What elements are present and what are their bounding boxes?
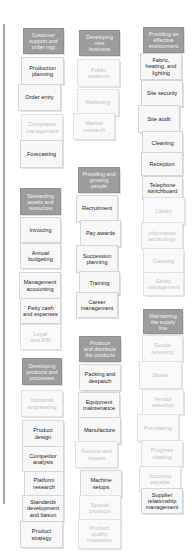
group-header-people: Providing and growing people [78,167,120,193]
card-recruitment[interactable]: Recruitment [76,195,118,222]
card-fabric-heating-lighting[interactable]: Fabric, heating, and lighting [140,53,182,80]
card-special-products[interactable]: Special products [79,495,121,521]
card-product-quality-inspection[interactable]: Product quality inspection [78,519,121,549]
card-career-management[interactable]: Career management [76,292,118,318]
group-header-customer-support: Customer support and order mgt [23,28,64,54]
card-site-audit[interactable]: Site audit [138,105,180,133]
card-product-design[interactable]: Product design [22,420,64,447]
group-header-new-business: Developing new business [79,30,120,56]
group-header-supply-line: Maintaining the supply line [143,309,183,334]
left-divider-rule [3,24,5,504]
card-goods-receiving[interactable]: Goods receiving [142,335,183,362]
card-competitor-analysis[interactable]: Competitor analysis [22,446,64,472]
card-progress-chasing[interactable]: Progress chasing [141,440,183,467]
card-purchasing[interactable]: Purchasing [137,414,179,442]
card-management-accounting[interactable]: Management accounting [19,272,61,299]
card-returns-repairs[interactable]: Returns and repairs [75,441,118,468]
card-production-planning[interactable]: Production planning [21,57,64,85]
card-library[interactable]: Library [143,197,185,225]
card-pay-awards[interactable]: Pay awards [80,220,121,247]
card-order-entry[interactable]: Order entry [18,84,61,111]
card-supplier-relationship-management[interactable]: Supplier relationship management [141,488,183,514]
card-packing-despatch[interactable]: Packing and despatch [79,364,121,391]
card-industrial-engineering[interactable]: Industrial engineering [21,390,63,417]
card-catering[interactable]: Catering [143,248,184,274]
card-marketing[interactable]: Marketing [77,89,119,116]
card-complaints-management[interactable]: Complaints management [21,114,63,141]
card-legal-ipr[interactable]: Legal and IPR [20,324,61,350]
card-annual-budgeting[interactable]: Annual budgeting [20,243,61,269]
card-product-strategy[interactable]: Product strategy [20,521,63,548]
card-public-relations[interactable]: Public relations [77,59,120,87]
group-header-produce-distribute: Produce and distribute the products [79,336,121,362]
card-stores[interactable]: Stores [139,361,182,389]
group-header-products-processes: Developing products and processes [22,358,62,385]
card-petty-cash-expenses[interactable]: Petty cash and expenses [20,298,61,324]
card-standards-development[interactable]: Standards development and liaison [22,495,64,522]
card-machine-setups[interactable]: Machine setups [80,470,122,497]
process-map-diagram: Customer support and order mgt Productio… [0,0,195,554]
card-information-technology[interactable]: Information technology [141,222,183,250]
card-equipment-maintenance[interactable]: Equipment maintenance [78,392,120,418]
group-header-environment: Providing an effective environment [143,27,184,53]
card-vendor-selection[interactable]: Vendor selection [142,389,184,415]
card-safety-management[interactable]: Safety management [143,272,184,296]
card-forecasting[interactable]: Forecasting [20,140,63,168]
card-reception[interactable]: Reception [141,152,183,176]
card-platform-research[interactable]: Platform research [24,471,64,496]
card-site-security[interactable]: Site security [141,80,183,107]
card-succession-planning[interactable]: Succession planning [76,245,118,273]
card-invoicing[interactable]: Invoicing [20,217,61,243]
card-manufacture[interactable]: Manufacture [78,417,121,444]
group-header-stewarding: Stewarding assets and resources [20,188,61,215]
card-market-research[interactable]: Market research [73,113,115,140]
